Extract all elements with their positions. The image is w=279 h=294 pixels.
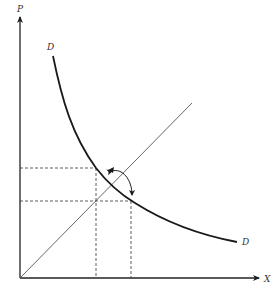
- forty-five-degree-line: [20, 103, 192, 278]
- demand-label-start: D: [46, 42, 54, 52]
- demand-curve: [53, 56, 237, 242]
- diagram-canvas: P X D D: [0, 0, 279, 294]
- y-axis-label: P: [16, 4, 24, 14]
- arrowhead-left-icon: [108, 167, 114, 173]
- x-axis-label: X: [263, 274, 271, 284]
- demand-label-end: D: [241, 237, 249, 247]
